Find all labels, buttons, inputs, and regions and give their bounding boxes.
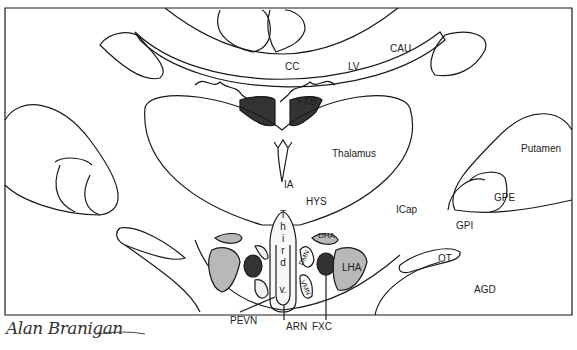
label-agd: AGD xyxy=(474,285,496,295)
third-ventricle-letter: r xyxy=(278,246,288,256)
label-putamen: Putamen xyxy=(521,144,561,154)
label-pevn: PEVN xyxy=(230,316,257,326)
label-thalamus: Thalamus xyxy=(332,149,376,159)
caudate-right xyxy=(431,32,486,75)
artist-signature: Alan Branigan xyxy=(6,318,123,338)
optic-tract-left xyxy=(117,228,185,259)
label-arn: ARN xyxy=(286,322,307,332)
putamen-left xyxy=(5,105,118,215)
label-lv: LV xyxy=(348,62,360,72)
label-ia: IA xyxy=(284,180,293,190)
label-cc: CC xyxy=(285,62,299,72)
dha-left xyxy=(215,234,242,244)
label-cau: CAU xyxy=(390,44,411,54)
label-gpi: GPI xyxy=(456,221,473,231)
brain-section-drawing xyxy=(0,0,577,350)
third-ventricle-letter: d xyxy=(278,258,288,268)
third-ventricle-letter: v. xyxy=(278,285,288,295)
label-dha: DHA xyxy=(318,232,335,240)
fxc-left xyxy=(244,255,262,277)
lha-left xyxy=(209,248,240,292)
third-ventricle-letter: i xyxy=(278,234,288,244)
label-lha: LHA xyxy=(342,263,361,273)
third-ventricle-letter: T xyxy=(278,210,288,220)
label-fxc: FXC xyxy=(312,322,332,332)
label-ot: OT xyxy=(438,254,452,264)
label-gpe: GPE xyxy=(494,193,515,203)
label-icap: ICap xyxy=(396,205,417,215)
caudate-left xyxy=(100,33,163,79)
label-fxb: FXB xyxy=(297,97,316,107)
top-arc xyxy=(165,8,398,54)
label-hys: HYS xyxy=(306,197,327,207)
third-ventricle-letter: h xyxy=(278,222,288,232)
corpus-callosum xyxy=(135,32,445,87)
fxc-right xyxy=(317,253,335,275)
